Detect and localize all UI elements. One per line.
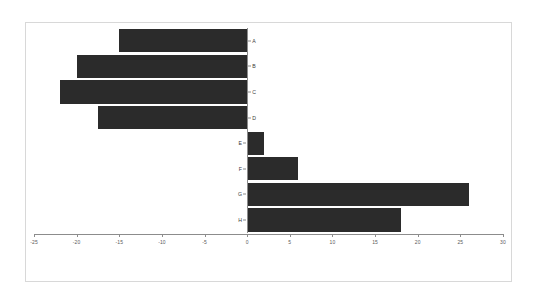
x-tick-mark <box>119 234 120 237</box>
bar-f[interactable] <box>247 157 298 180</box>
x-tick-label: -25 <box>30 239 38 245</box>
bar-row: A <box>34 28 503 54</box>
x-tick-label: 30 <box>500 239 506 245</box>
category-label-e: E <box>239 140 243 146</box>
bar-row: E <box>34 130 503 156</box>
bar-h[interactable] <box>247 208 400 231</box>
x-tick-mark <box>332 234 333 237</box>
bar-e[interactable] <box>247 132 264 155</box>
bar-row: D <box>34 105 503 131</box>
plot-area: ABCDEFGH -25-20-15-10-5051015202530 <box>34 28 503 262</box>
bar-row: B <box>34 54 503 80</box>
category-tick-mark <box>248 40 251 41</box>
x-tick-label: 15 <box>372 239 378 245</box>
x-tick-mark <box>418 234 419 237</box>
bars-container: ABCDEFGH <box>34 28 503 233</box>
bar-row: G <box>34 182 503 208</box>
x-tick-label: -10 <box>158 239 166 245</box>
bar-chart-figure: ABCDEFGH -25-20-15-10-5051015202530 <box>0 0 536 298</box>
x-tick-label: -20 <box>73 239 81 245</box>
x-tick-label: 10 <box>330 239 336 245</box>
x-tick-mark <box>375 234 376 237</box>
category-label-d: D <box>252 115 256 121</box>
x-axis: -25-20-15-10-5051015202530 <box>34 234 503 262</box>
x-tick-mark <box>77 234 78 237</box>
category-tick-mark <box>248 117 251 118</box>
x-tick-mark <box>162 234 163 237</box>
category-label-f: F <box>239 166 242 172</box>
x-tick-mark <box>290 234 291 237</box>
x-tick-mark <box>247 234 248 237</box>
category-tick-mark <box>248 91 251 92</box>
category-label-g: G <box>238 191 242 197</box>
bar-row: H <box>34 207 503 233</box>
x-tick-mark <box>460 234 461 237</box>
zero-axis-line <box>247 28 248 233</box>
bar-row: C <box>34 79 503 105</box>
category-tick-mark <box>243 219 246 220</box>
x-tick-label: 25 <box>457 239 463 245</box>
category-label-c: C <box>252 89 256 95</box>
x-tick-label: 5 <box>288 239 291 245</box>
bar-c[interactable] <box>60 80 248 103</box>
category-label-h: H <box>238 217 242 223</box>
x-tick-mark <box>503 234 504 237</box>
x-tick-label: 0 <box>246 239 249 245</box>
category-label-b: B <box>252 63 256 69</box>
x-tick-mark <box>205 234 206 237</box>
bar-b[interactable] <box>77 55 248 78</box>
category-tick-mark <box>243 143 246 144</box>
x-tick-mark <box>34 234 35 237</box>
bar-a[interactable] <box>119 29 247 52</box>
x-tick-label: -15 <box>116 239 124 245</box>
bar-d[interactable] <box>98 106 247 129</box>
bar-row: F <box>34 156 503 182</box>
category-tick-mark <box>243 194 246 195</box>
category-tick-mark <box>248 66 251 67</box>
x-axis-line <box>34 234 503 235</box>
bar-g[interactable] <box>247 183 469 206</box>
x-tick-label: 20 <box>415 239 421 245</box>
category-tick-mark <box>243 168 246 169</box>
category-label-a: A <box>252 38 256 44</box>
x-tick-label: -5 <box>202 239 207 245</box>
